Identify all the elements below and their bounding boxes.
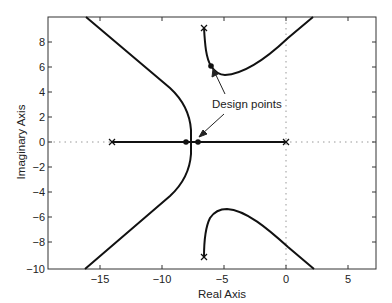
y-tick-label: 0: [39, 136, 45, 148]
y-tick-label: 4: [39, 86, 45, 98]
x-tick-labels: −15 −10 −5 0 5: [91, 273, 351, 285]
y-tick-label: 2: [39, 111, 45, 123]
design-point-marker: [195, 139, 201, 145]
x-tick-label: −5: [216, 273, 229, 285]
y-tick-label: −4: [32, 186, 45, 198]
design-point-marker: [183, 139, 189, 145]
design-points-annotation: Design points: [212, 98, 282, 110]
y-axis-label: Imaginary Axis: [15, 104, 27, 179]
y-tick-label: −8: [32, 236, 45, 248]
x-tick-label: 5: [345, 273, 351, 285]
root-locus-chart: −15 −10 −5 0 5 8 6 4 2 0 −2 −4 −6 −8 −10…: [0, 0, 392, 303]
y-tick-label: −2: [32, 161, 45, 173]
y-tick-label: −10: [26, 263, 45, 275]
x-tick-label: −10: [153, 273, 172, 285]
y-tick-label: 6: [39, 61, 45, 73]
y-tick-label: −6: [32, 211, 45, 223]
x-tick-label: 0: [283, 273, 289, 285]
y-tick-labels: 8 6 4 2 0 −2 −4 −6 −8 −10: [26, 36, 45, 275]
x-axis-label: Real Axis: [198, 288, 246, 300]
x-tick-label: −15: [91, 273, 110, 285]
y-tick-label: 8: [39, 36, 45, 48]
design-point-marker: [208, 63, 214, 69]
